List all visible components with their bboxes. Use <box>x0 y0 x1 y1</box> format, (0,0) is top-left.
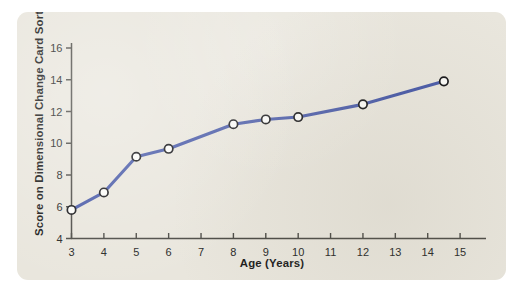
line-chart: Score on Dimensional Change Card Sort 46… <box>17 12 506 280</box>
x-tick-label: 8 <box>230 246 236 258</box>
data-line <box>72 81 444 210</box>
x-tick-label: 6 <box>166 246 172 258</box>
x-tick-label: 12 <box>357 246 369 258</box>
data-point-marker <box>132 153 140 161</box>
data-point-marker <box>294 113 302 121</box>
data-point-marker <box>440 77 448 85</box>
x-axis-title: Age (Years) <box>240 257 304 269</box>
data-point-marker <box>359 100 367 108</box>
y-tick-label: 14 <box>50 74 62 86</box>
y-tick-label: 6 <box>56 201 62 213</box>
y-axis-title: Score on Dimensional Change Card Sort <box>33 12 45 236</box>
y-axis-tick-labels: 46810121416 <box>50 42 62 245</box>
y-tick-label: 8 <box>56 169 62 181</box>
x-tick-label: 4 <box>101 246 107 258</box>
y-tick-label: 12 <box>50 106 62 118</box>
y-tick-label: 10 <box>50 137 62 149</box>
x-tick-label: 10 <box>292 246 304 258</box>
data-point-marker <box>229 120 237 128</box>
data-point-marker <box>67 206 75 214</box>
x-axis-tick-labels: 3456789101112131415 <box>68 246 466 258</box>
x-tick-label: 13 <box>389 246 401 258</box>
y-tick-label: 16 <box>50 42 62 54</box>
x-tick-label: 11 <box>325 246 336 258</box>
plot-area: Score on Dimensional Change Card Sort 46… <box>17 12 506 280</box>
data-point-marker <box>100 188 108 196</box>
y-tick-label: 4 <box>56 233 62 245</box>
cut-off-header-text <box>0 0 519 3</box>
x-tick-label: 9 <box>263 246 269 258</box>
x-tick-label: 5 <box>133 246 139 258</box>
x-tick-label: 3 <box>68 246 74 258</box>
figure-card: Score on Dimensional Change Card Sort 46… <box>17 12 506 280</box>
x-tick-label: 7 <box>198 246 204 258</box>
x-tick-label: 14 <box>422 246 434 258</box>
x-tick-label: 15 <box>454 246 466 258</box>
data-point-marker <box>164 145 172 153</box>
data-point-marker <box>262 115 270 123</box>
